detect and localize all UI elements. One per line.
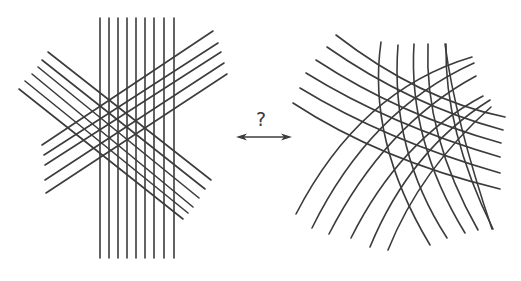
curved-line	[306, 73, 500, 157]
curved-line	[329, 76, 476, 234]
curved-line	[336, 35, 505, 117]
curved-line	[446, 44, 493, 229]
straight-line-grid	[19, 18, 227, 258]
straight-line	[19, 89, 183, 219]
straight-line	[44, 43, 218, 155]
curved-line	[428, 44, 478, 230]
curved-line-grid	[293, 35, 505, 250]
diagram-canvas	[0, 0, 521, 281]
question-mark-label: ?	[253, 110, 269, 129]
straight-line	[48, 52, 211, 180]
straight-line	[45, 63, 224, 180]
double-headed-arrow-icon	[236, 134, 292, 141]
straight-line	[42, 60, 205, 189]
line-family-vertical	[100, 18, 174, 258]
curved-line	[445, 44, 492, 229]
straight-line	[45, 52, 221, 165]
